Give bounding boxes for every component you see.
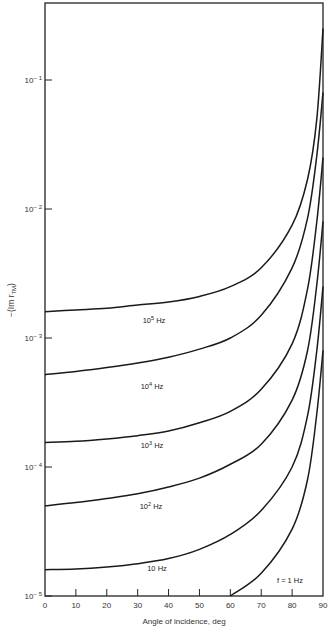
y-tick-label: 10− 4 <box>25 462 43 472</box>
x-tick-label: 80 <box>288 601 297 610</box>
curve-10-4-hz <box>45 93 323 375</box>
chart: 10− 110− 210− 310− 410− 5 01020304050607… <box>0 0 335 635</box>
curve-10-hz <box>45 287 323 570</box>
y-tick-label: 10− 3 <box>25 333 43 343</box>
x-axis-label: Angle of incidence, deg <box>142 617 225 626</box>
curve-label: f = 1 Hz <box>277 576 303 585</box>
x-tick-label: 30 <box>133 601 142 610</box>
x-tick-label: 60 <box>226 601 235 610</box>
x-tick-label: 0 <box>43 601 48 610</box>
curve-label: 103 Hz <box>141 440 164 450</box>
x-tick-label: 70 <box>257 601 266 610</box>
y-tick-label: 10− 1 <box>25 75 43 85</box>
y-axis: 10− 110− 210− 310− 410− 5 <box>25 75 52 601</box>
x-tick-label: 90 <box>319 601 328 610</box>
y-tick-label: 10− 5 <box>25 591 43 601</box>
curve-labels: 105 Hz104 Hz103 Hz102 Hz10 Hzf = 1 Hz <box>140 315 304 585</box>
y-axis-label: −(Im rTM) <box>6 283 17 317</box>
svg-text:−(Im rTM): −(Im rTM) <box>6 283 17 317</box>
x-tick-label: 50 <box>195 601 204 610</box>
x-tick-label: 10 <box>71 601 80 610</box>
y-tick-label: 10− 2 <box>25 204 43 214</box>
curve-10-5-hz <box>45 29 323 312</box>
x-tick-label: 40 <box>164 601 173 610</box>
curve-label: 10 Hz <box>147 564 167 573</box>
x-tick-label: 20 <box>102 601 111 610</box>
curve-label: 102 Hz <box>140 501 163 511</box>
curve-label: 104 Hz <box>141 381 164 391</box>
curves <box>45 29 323 596</box>
curve-f-1-hz <box>230 351 323 596</box>
curve-label: 105 Hz <box>143 315 166 325</box>
x-axis: 0102030405060708090 <box>43 589 328 610</box>
